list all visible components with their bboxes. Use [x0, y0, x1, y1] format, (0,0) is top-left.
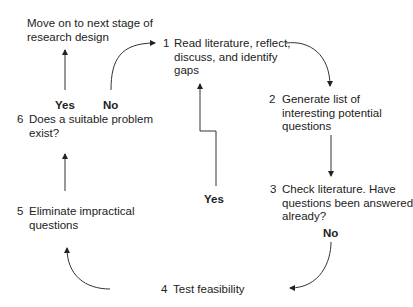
node-2-line: questions: [282, 120, 382, 134]
node-4-line: Test feasibility: [173, 283, 245, 297]
node-3-number: 3: [270, 183, 276, 195]
node-1-line: gaps: [174, 64, 290, 78]
node-2-line: interesting potential: [282, 107, 382, 121]
node-3-line: already?: [282, 210, 413, 224]
node-4: Test feasibility: [173, 283, 245, 297]
edge-3-to-1: [200, 84, 216, 186]
node-end-line: research design: [27, 31, 153, 45]
node-4-number: 4: [161, 283, 167, 295]
edge-3-to-4-label: No: [323, 227, 338, 239]
node-3-line: questions been answered: [282, 197, 413, 211]
edge-3-to-4: [290, 242, 331, 288]
edge-6-to-end-label: Yes: [55, 99, 75, 111]
node-1-line: discuss, and identify: [174, 51, 290, 65]
node-6-line: exist?: [29, 127, 153, 141]
edge-3-to-1-label: Yes: [204, 193, 224, 205]
node-5-number: 5: [17, 205, 23, 217]
node-5-line: questions: [29, 219, 134, 233]
edge-4-to-5: [67, 248, 110, 289]
node-6-line: Does a suitable problem: [29, 113, 153, 127]
edge-6-to-1-label: No: [103, 99, 118, 111]
edge-1-to-2: [286, 43, 330, 86]
node-end-line: Move on to next stage of: [27, 17, 153, 31]
node-end: Move on to next stage of research design: [27, 17, 153, 44]
node-1-line: Read literature, reflect,: [174, 37, 290, 51]
node-1: Read literature, reflect, discuss, and i…: [174, 37, 290, 78]
node-5: Eliminate impractical questions: [29, 205, 134, 232]
node-3: Check literature. Have questions been an…: [282, 183, 413, 224]
node-6: Does a suitable problem exist?: [29, 113, 153, 140]
node-6-number: 6: [17, 113, 23, 125]
node-2-number: 2: [269, 93, 275, 105]
node-5-line: Eliminate impractical: [29, 205, 134, 219]
node-1-number: 1: [163, 37, 169, 49]
node-3-line: Check literature. Have: [282, 183, 413, 197]
edge-6-to-1: [111, 43, 155, 90]
node-2: Generate list of interesting potential q…: [282, 93, 382, 134]
node-2-line: Generate list of: [282, 93, 382, 107]
